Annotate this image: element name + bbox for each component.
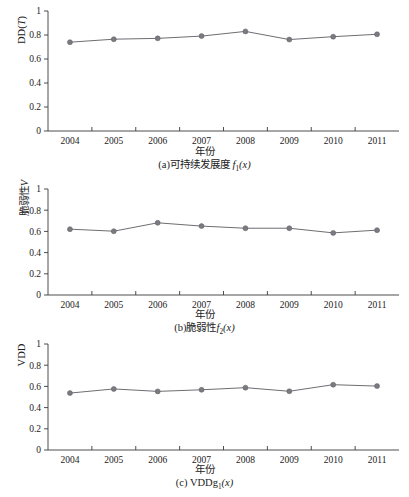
data-point-marker [243, 29, 248, 34]
chart-panel-c: VDD 00.20.40.60.812004200520062007200820… [0, 335, 409, 497]
data-point-marker [375, 32, 380, 37]
x-tick-label: 2009 [280, 300, 299, 308]
figure-sheet: DD(T) 00.20.40.60.8120042005200620072008… [0, 0, 409, 497]
x-axis-title-c: 年份 [0, 463, 409, 476]
y-tick-label: 0.2 [29, 424, 41, 434]
x-tick-label: 2004 [60, 300, 79, 308]
x-tick-label: 2007 [192, 136, 211, 145]
x-tick-label: 2006 [148, 455, 167, 463]
chart-svg-c: 00.20.40.60.8120042005200620072008200920… [0, 335, 409, 463]
y-tick-label: 0.4 [29, 248, 41, 258]
y-tick-label: 0.6 [29, 227, 41, 237]
x-tick-label: 2010 [324, 455, 343, 463]
y-tick-label: 1 [36, 184, 41, 194]
caption-b-prefix: (b)脆弱性 [174, 322, 216, 333]
y-tick-label: 0 [36, 290, 41, 300]
x-tick-label: 2011 [368, 455, 387, 463]
y-tick-label: 0.2 [29, 269, 41, 279]
y-tick-label: 0 [36, 126, 41, 136]
data-point-marker [287, 37, 292, 42]
data-point-marker [375, 228, 380, 233]
data-point-marker [331, 382, 336, 387]
data-point-marker [199, 34, 204, 39]
y-tick-label: 0.4 [29, 403, 41, 413]
x-tick-label: 2011 [368, 300, 387, 308]
caption-a-prefix: (a)可持续发展度 [158, 159, 232, 170]
x-tick-label: 2005 [104, 300, 123, 308]
data-point-marker [243, 385, 248, 390]
caption-a: (a)可持续发展度 f1(x) [0, 158, 409, 176]
data-point-marker [111, 229, 116, 234]
y-tick-label: 0.8 [29, 30, 41, 40]
x-tick-label: 2011 [368, 136, 387, 145]
x-tick-label: 2007 [192, 300, 211, 308]
data-point-marker [111, 386, 116, 391]
data-point-marker [199, 224, 204, 229]
y-tick-label: 1 [36, 339, 41, 349]
data-point-marker [331, 230, 336, 235]
x-tick-label: 2005 [104, 455, 123, 463]
data-point-marker [155, 220, 160, 225]
x-tick-label: 2004 [60, 455, 79, 463]
y-tick-label: 0.2 [29, 102, 41, 112]
x-tick-label: 2006 [148, 136, 167, 145]
caption-a-tail: (x) [239, 159, 251, 170]
y-tick-label: 0.6 [29, 382, 41, 392]
data-point-marker [199, 387, 204, 392]
data-point-marker [67, 40, 72, 45]
x-axis-title-a: 年份 [0, 145, 409, 158]
y-tick-label: 1 [36, 6, 41, 16]
data-point-marker [375, 384, 380, 389]
caption-b-tail: (x) [223, 322, 235, 333]
x-tick-label: 2009 [280, 136, 299, 145]
y-tick-label: 0.6 [29, 54, 41, 64]
x-tick-label: 2008 [236, 136, 255, 145]
x-tick-label: 2010 [324, 300, 343, 308]
caption-c: (c) VDDg1(x) [0, 476, 409, 494]
x-tick-label: 2010 [324, 136, 343, 145]
x-tick-label: 2009 [280, 455, 299, 463]
data-point-marker [67, 391, 72, 396]
x-tick-label: 2005 [104, 136, 123, 145]
data-point-marker [155, 389, 160, 394]
plot-area-c: VDD 00.20.40.60.812004200520062007200820… [0, 335, 409, 463]
data-point-marker [287, 389, 292, 394]
y-tick-label: 0.8 [29, 206, 41, 216]
plot-area-a: DD(T) 00.20.40.60.8120042005200620072008… [0, 0, 409, 145]
data-point-marker [243, 226, 248, 231]
y-tick-label: 0 [36, 445, 41, 455]
chart-panel-b: 脆弱性V 00.20.40.60.81200420052006200720082… [0, 180, 409, 335]
caption-c-tail: (x) [222, 477, 234, 488]
x-tick-label: 2004 [60, 136, 79, 145]
plot-area-b: 脆弱性V 00.20.40.60.81200420052006200720082… [0, 180, 409, 308]
data-point-marker [331, 34, 336, 39]
x-tick-label: 2008 [236, 455, 255, 463]
x-tick-label: 2006 [148, 300, 167, 308]
caption-c-prefix: (c) VDDg [176, 477, 218, 488]
data-point-marker [155, 36, 160, 41]
chart-svg-a: 00.20.40.60.8120042005200620072008200920… [0, 0, 409, 145]
x-tick-label: 2007 [192, 455, 211, 463]
x-axis-title-b: 年份 [0, 308, 409, 321]
chart-panel-a: DD(T) 00.20.40.60.8120042005200620072008… [0, 0, 409, 180]
data-point-marker [111, 37, 116, 42]
data-point-marker [67, 227, 72, 232]
data-point-marker [287, 226, 292, 231]
y-tick-label: 0.8 [29, 361, 41, 371]
chart-svg-b: 00.20.40.60.8120042005200620072008200920… [0, 180, 409, 308]
x-tick-label: 2008 [236, 300, 255, 308]
y-tick-label: 0.4 [29, 78, 41, 88]
